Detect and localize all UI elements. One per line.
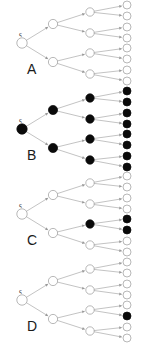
tree-node-level1-2[interactable] [48,314,57,323]
tree-edge-arrowhead [82,30,85,33]
tree-node-leaf-7[interactable] [123,66,131,74]
tree-edge [90,28,122,33]
tree-node-level2-3[interactable] [86,135,94,143]
tree-edge [90,135,122,139]
tree-node-leaf-8[interactable] [123,163,131,171]
tree-node-leaf-7[interactable] [123,237,131,245]
tree-edge-arrowhead [119,271,122,274]
tree-node-leaf-1[interactable] [123,1,131,9]
tree-node-level2-1[interactable] [86,94,94,102]
tree-node-leaf-6[interactable] [123,226,131,234]
tree-edge [90,119,122,123]
tree-edge [90,220,122,224]
tree-node-leaf-6[interactable] [123,312,131,320]
tree-edge-arrowhead [119,78,122,81]
tree-node-level1-1[interactable] [48,276,57,285]
tree-node-leaf-2[interactable] [123,183,131,191]
tree-node-level2-4[interactable] [86,327,94,335]
tree-edge [53,185,85,195]
tree-node-leaf-3[interactable] [123,23,131,31]
tree-edge [90,306,122,310]
tree-edge [53,319,85,329]
tree-node-leaf-5[interactable] [123,44,131,52]
tree-node-leaf-8[interactable] [123,77,131,85]
tree-edge-arrowhead [119,313,122,316]
tree-node-level2-4[interactable] [86,241,94,249]
tree-node-leaf-2[interactable] [123,98,131,106]
tree-figure: ςAςBςCςD [0,0,145,343]
tree-node-leaf-3[interactable] [123,280,131,288]
tree-node-leaf-8[interactable] [123,248,131,256]
tree-node-level2-2[interactable] [86,200,94,208]
tree-edge [90,224,122,229]
tree-node-leaf-5[interactable] [123,301,131,309]
root-source-glyph: ς [19,201,22,209]
tree-node-root[interactable] [17,38,27,48]
tree-edge [90,183,122,186]
tree-node-level1-1[interactable] [48,19,57,28]
tree-edge [53,271,85,281]
tree-node-root[interactable] [17,295,27,305]
tree-node-level2-2[interactable] [86,29,94,37]
tree-node-level1-2[interactable] [48,143,57,152]
tree-edge [90,6,122,12]
tree-edge [90,114,122,119]
tree-edge-arrowhead [119,335,122,338]
tree-node-root[interactable] [17,209,27,219]
tree-edge [90,71,122,74]
tree-node-level2-2[interactable] [86,115,94,123]
tree-edge-arrowhead [82,224,85,227]
tree-edge [90,285,122,290]
tree-node-level1-1[interactable] [48,190,57,199]
tree-node-leaf-3[interactable] [123,194,131,202]
tree-edge-arrowhead [119,27,122,30]
root-source-glyph: ς [19,116,22,124]
tree-node-level2-4[interactable] [86,70,94,78]
tree-edge-arrowhead [82,116,85,119]
tree-node-leaf-3[interactable] [123,109,131,117]
tree-edge-arrowhead [82,139,85,142]
tree-node-leaf-4[interactable] [123,291,131,299]
tree-node-leaf-5[interactable] [123,215,131,223]
tree-node-level1-2[interactable] [48,228,57,237]
tree-node-leaf-2[interactable] [123,269,131,277]
tree-edge [53,62,85,72]
tree-node-root[interactable] [17,124,27,134]
tree-node-leaf-4[interactable] [123,34,131,42]
tree-edge [90,74,122,80]
tree-edge [90,204,122,208]
tree-node-level2-3[interactable] [86,49,94,57]
tree-edge [90,331,122,337]
tree-node-leaf-1[interactable] [123,258,131,266]
tree-node-leaf-4[interactable] [123,205,131,213]
tree-node-leaf-5[interactable] [123,130,131,138]
tree-node-level2-3[interactable] [86,220,94,228]
tree-node-level2-1[interactable] [86,8,94,16]
tree-node-leaf-1[interactable] [123,172,131,180]
root-source-glyph: ς [19,287,22,295]
tree-node-level1-1[interactable] [48,105,57,114]
tree-node-leaf-4[interactable] [123,120,131,128]
tree-edge-arrowhead [82,201,85,204]
tree-edge [90,92,122,98]
tree-panel-a: ςA [0,0,145,86]
tree-node-level2-2[interactable] [86,286,94,294]
tree-node-leaf-7[interactable] [123,152,131,160]
tree-node-leaf-6[interactable] [123,141,131,149]
tree-edge-arrowhead [82,53,85,56]
tree-node-level2-4[interactable] [86,156,94,164]
tree-node-level2-1[interactable] [86,179,94,187]
tree-node-level2-3[interactable] [86,306,94,314]
tree-edge [90,290,122,294]
tree-node-leaf-7[interactable] [123,323,131,331]
tree-edge [90,199,122,204]
tree-edge-arrowhead [119,185,122,188]
tree-node-level1-2[interactable] [48,57,57,66]
tree-node-leaf-6[interactable] [123,55,131,63]
tree-edge-arrowhead [119,262,122,265]
tree-node-leaf-2[interactable] [123,12,131,20]
tree-node-leaf-1[interactable] [123,87,131,95]
tree-node-leaf-8[interactable] [123,334,131,342]
tree-node-level2-1[interactable] [86,265,94,273]
tree-panel-c: ςC [0,171,145,257]
